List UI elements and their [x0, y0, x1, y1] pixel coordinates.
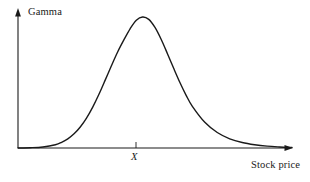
gamma-curve: [18, 17, 292, 148]
strike-tick-label: X: [131, 152, 137, 163]
y-axis-arrowhead-icon: [15, 8, 21, 17]
y-axis-label: Gamma: [28, 7, 62, 18]
gamma-plot-svg: [0, 0, 310, 182]
x-axis-label: Stock price: [251, 160, 300, 171]
gamma-curve-figure: Gamma Stock price X: [0, 0, 310, 182]
